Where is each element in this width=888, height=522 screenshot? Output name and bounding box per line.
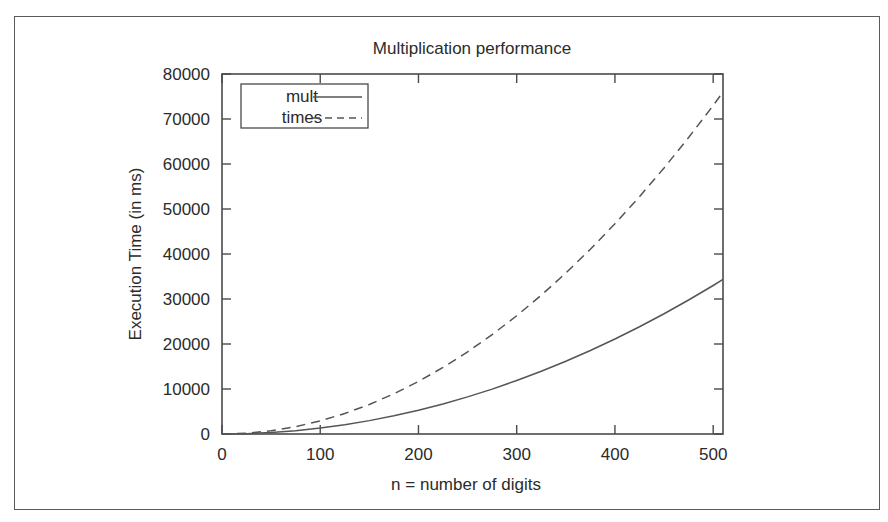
x-tick-label: 400 bbox=[601, 445, 629, 464]
y-tick-label: 20000 bbox=[163, 335, 210, 354]
x-tick-label: 300 bbox=[503, 445, 531, 464]
x-tick-label: 500 bbox=[699, 445, 727, 464]
y-tick-label: 0 bbox=[201, 425, 210, 444]
figure-root: Multiplication performance 0100002000030… bbox=[0, 0, 888, 522]
y-tick-label: 40000 bbox=[163, 245, 210, 264]
x-tick-label: 100 bbox=[306, 445, 334, 464]
y-tick-label: 50000 bbox=[163, 200, 210, 219]
x-tick-label: 200 bbox=[404, 445, 432, 464]
series-group bbox=[222, 92, 723, 434]
multiplication-performance-chart: Multiplication performance 0100002000030… bbox=[0, 0, 888, 522]
chart-title: Multiplication performance bbox=[373, 39, 571, 58]
series-line-times bbox=[222, 92, 723, 434]
y-tick-label: 30000 bbox=[163, 290, 210, 309]
x-axis: 0100200300400500 bbox=[217, 74, 727, 464]
y-tick-label: 70000 bbox=[163, 110, 210, 129]
x-tick-label: 0 bbox=[217, 445, 226, 464]
x-axis-title: n = number of digits bbox=[391, 475, 541, 494]
chart-legend: mult times bbox=[241, 84, 368, 128]
y-tick-label: 80000 bbox=[163, 65, 210, 84]
series-line-mult bbox=[222, 279, 723, 434]
y-axis-title: Execution Time (in ms) bbox=[126, 168, 145, 341]
y-tick-label: 10000 bbox=[163, 380, 210, 399]
y-tick-label: 60000 bbox=[163, 155, 210, 174]
